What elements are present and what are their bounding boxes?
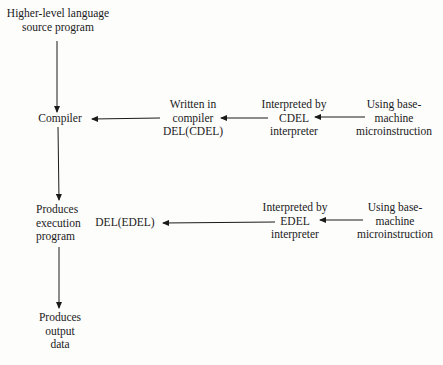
node-text: execution (36, 217, 96, 231)
node-text: Using base- (345, 98, 443, 112)
node-text: output (30, 325, 90, 339)
arrow-compiler-to-exec (58, 127, 59, 200)
node-text: Higher-level language (0, 7, 116, 21)
node-text: Written in (155, 98, 231, 112)
node-text: Interpreted by (254, 201, 336, 215)
node-text: machine (346, 215, 443, 229)
node-text: CDEL (253, 112, 335, 126)
node-text: interpreter (253, 125, 335, 139)
node-edel-label: DEL(EDEL) (90, 216, 160, 230)
node-output-data: Produces output data (30, 311, 90, 352)
node-cdel-interpreter: Interpreted by CDEL interpreter (253, 98, 335, 139)
node-text: Produces (30, 311, 90, 325)
node-text: program (36, 230, 96, 244)
node-source-program: Higher-level language source program (0, 7, 116, 34)
node-edel-interpreter: Interpreted by EDEL interpreter (254, 201, 336, 242)
node-text: compiler (155, 112, 231, 126)
node-text: interpreter (254, 228, 336, 242)
node-text: microinstruction (346, 228, 443, 242)
node-text: source program (0, 21, 116, 35)
node-compiler: Compiler (32, 112, 88, 126)
node-text: data (30, 338, 90, 352)
node-text: Interpreted by (253, 98, 335, 112)
node-text: DEL(EDEL) (90, 216, 160, 230)
arrow-written-to-compiler (92, 118, 160, 119)
node-text: Compiler (32, 112, 88, 126)
node-written-in-cdel: Written in compiler DEL(CDEL) (155, 98, 231, 139)
diagram-canvas: Higher-level language source program Com… (0, 0, 443, 365)
node-text: DEL(CDEL) (155, 125, 231, 139)
node-text: microinstruction (345, 125, 443, 139)
node-text: machine (345, 112, 443, 126)
node-produces-execution: Produces execution program (36, 203, 96, 244)
node-text: Produces (36, 203, 96, 217)
node-base-machine-2: Using base- machine microinstruction (346, 201, 443, 242)
node-text: EDEL (254, 215, 336, 229)
node-base-machine-1: Using base- machine microinstruction (345, 98, 443, 139)
node-text: Using base- (346, 201, 443, 215)
